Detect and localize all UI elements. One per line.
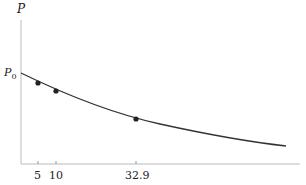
- x-tick-label-5: 5: [34, 169, 41, 182]
- y-tick-p0: P0: [4, 66, 17, 81]
- decay-curve: [21, 73, 286, 146]
- chart-canvas: [0, 0, 306, 185]
- x-tick-label-10: 10: [49, 169, 63, 182]
- y-axis-label: P: [17, 2, 25, 16]
- data-point-5: [35, 80, 40, 85]
- data-point-10: [53, 88, 58, 93]
- x-tick-label-32-9: 32.9: [125, 169, 150, 182]
- data-point-32-9: [133, 116, 138, 121]
